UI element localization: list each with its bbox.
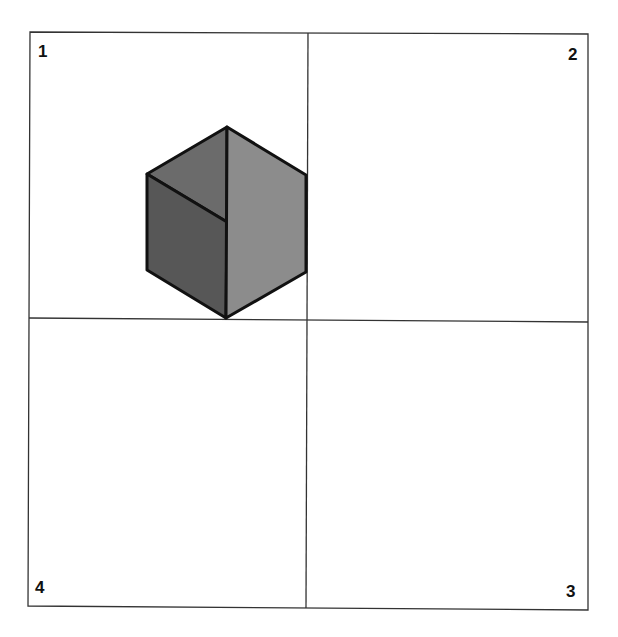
cube-right-face <box>226 127 306 318</box>
quadrant-label-1: 1 <box>38 43 47 60</box>
horizontal-divider <box>29 318 588 322</box>
quadrant-label-3: 3 <box>566 583 575 600</box>
cube-shape <box>147 127 306 318</box>
quadrant-label-2: 2 <box>568 46 577 63</box>
quadrant-label-4: 4 <box>35 579 44 596</box>
quadrant-diagram <box>0 0 618 637</box>
